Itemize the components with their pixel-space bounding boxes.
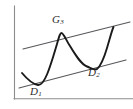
trough-label-d2: D2 — [88, 67, 100, 79]
trough-right-label-base: D — [88, 66, 96, 78]
trough-left-label-base: D — [30, 85, 38, 97]
peak-label-base: G — [52, 13, 60, 25]
peak-label-g3: G3 — [52, 14, 64, 26]
trough-left-label-sub: 1 — [38, 90, 42, 98]
figure-container: G3 D1 D2 — [0, 0, 133, 109]
trough-right-label-sub: 2 — [96, 71, 100, 79]
peak-label-sub: 3 — [60, 18, 64, 26]
figure-canvas — [0, 0, 133, 109]
trough-label-d1: D1 — [30, 86, 42, 98]
upper-channel-line — [23, 22, 130, 49]
